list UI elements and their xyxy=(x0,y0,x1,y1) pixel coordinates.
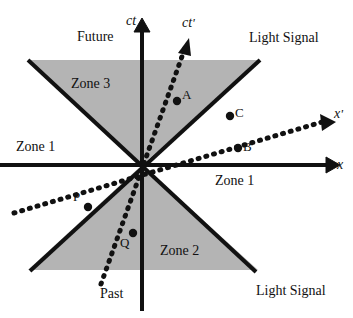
past-label: Past xyxy=(100,287,123,301)
ct-prime-mark: ' xyxy=(192,15,195,30)
ct-axis-arrowhead xyxy=(134,18,150,32)
event-label-B: B xyxy=(243,140,252,153)
event-dot-C xyxy=(226,112,234,120)
event-label-Q: Q xyxy=(120,236,129,249)
ct-axis-label: ct xyxy=(126,14,136,28)
event-label-P: P xyxy=(73,190,80,203)
x-axis-label: x xyxy=(337,158,343,172)
event-dot-A xyxy=(173,97,181,105)
event-dot-B xyxy=(234,144,242,152)
ct-prime-arrowhead xyxy=(178,38,191,56)
spacetime-diagram-canvas xyxy=(0,0,353,318)
future-label: Future xyxy=(77,30,114,44)
x-prime-axis-label: x' xyxy=(334,107,343,121)
zone1-right-label: Zone 1 xyxy=(215,174,254,188)
ct-prime-axis-label: ct' xyxy=(182,16,195,30)
event-label-C: C xyxy=(235,106,244,119)
zone3-label: Zone 3 xyxy=(71,77,110,91)
light-signal-bottom-label: Light Signal xyxy=(256,284,326,298)
zone1-left-label: Zone 1 xyxy=(16,140,55,154)
event-label-A: A xyxy=(182,88,191,101)
light-signal-top-label: Light Signal xyxy=(249,31,319,45)
zone2-label: Zone 2 xyxy=(160,244,199,258)
x-prime-mark: ' xyxy=(340,106,343,121)
ct-prime-base: ct xyxy=(182,15,192,30)
spacetime-diagram: ct ct' x x' Future Past Light Signal Lig… xyxy=(0,0,353,318)
event-dot-P xyxy=(84,203,92,211)
event-dot-Q xyxy=(129,229,137,237)
